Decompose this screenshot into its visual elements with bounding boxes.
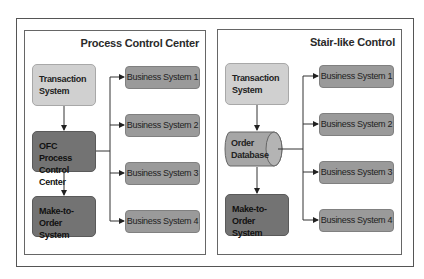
- node-label: Order: [231, 137, 269, 149]
- panel-title: Process Control Center: [81, 37, 199, 49]
- business-system-1-node: Business System 1: [125, 66, 200, 89]
- business-system-4-node: Business System 4: [319, 209, 394, 232]
- business-system-2-node: Business System 2: [125, 114, 200, 137]
- business-system-3-node: Business System 3: [319, 161, 394, 184]
- business-system-4-node: Business System 4: [125, 210, 200, 233]
- transaction-system-node: Transaction System: [225, 63, 289, 105]
- node-label: Transaction: [39, 73, 89, 85]
- node-label: OFC Process: [39, 140, 89, 164]
- node-label: System: [232, 227, 282, 239]
- make-to-order-system-node: Make-to-Order System: [32, 196, 96, 237]
- node-label: Transaction: [232, 72, 282, 84]
- node-label: System: [232, 84, 282, 96]
- ofc-process-control-center-node: OFC Process Control Center: [32, 131, 96, 172]
- node-label: Make-to-Order: [232, 203, 282, 227]
- business-system-2-node: Business System 2: [319, 113, 394, 136]
- node-label: Make-to-Order: [39, 205, 89, 229]
- node-label: Control Center: [39, 164, 89, 188]
- panel-title: Stair-like Control: [310, 36, 395, 48]
- order-database-node: Order Database: [231, 137, 269, 161]
- make-to-order-system-node: Make-to-Order System: [225, 194, 289, 236]
- business-system-1-node: Business System 1: [319, 65, 394, 88]
- business-system-3-node: Business System 3: [125, 162, 200, 185]
- node-label: System: [39, 85, 89, 97]
- node-label: Database: [231, 149, 269, 161]
- transaction-system-node: Transaction System: [32, 64, 96, 106]
- node-label: System: [39, 229, 89, 241]
